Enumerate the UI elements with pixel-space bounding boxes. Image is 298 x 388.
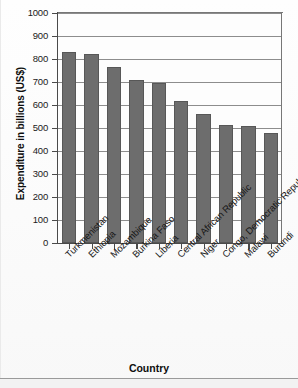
bar (219, 125, 234, 243)
bar (62, 52, 77, 243)
figure-bottom-margin (0, 379, 298, 388)
y-tick-label: 200 (33, 192, 48, 202)
bar (174, 101, 189, 243)
bar-chart: 01002003004005006007008009001000 Turkmen… (0, 0, 298, 388)
y-tick-label: 600 (33, 100, 48, 110)
bar (107, 67, 122, 243)
y-tick-label: 300 (33, 169, 48, 179)
y-tick-label: 100 (33, 215, 48, 225)
y-axis-title: Expenditure in billions (US$) (15, 26, 26, 242)
y-tick-label: 800 (33, 54, 48, 64)
bar (264, 133, 279, 243)
y-tick-label: 0 (43, 238, 48, 248)
y-tick-label: 1000 (28, 8, 48, 18)
y-tick-label: 900 (33, 31, 48, 41)
bar (84, 54, 99, 243)
bars-group (58, 13, 282, 243)
x-axis-title: Country (0, 362, 298, 374)
y-tick-label: 400 (33, 146, 48, 156)
y-tick-label: 500 (33, 123, 48, 133)
y-tick-label: 700 (33, 77, 48, 87)
figure-panel: 01002003004005006007008009001000 Turkmen… (0, 0, 298, 388)
